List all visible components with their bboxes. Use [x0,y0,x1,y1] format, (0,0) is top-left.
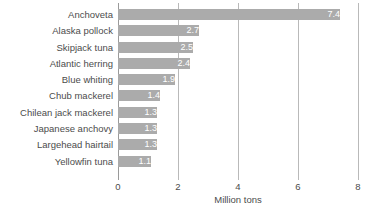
x-tick-label: 8 [355,181,360,192]
category-label: Atlantic herring [0,57,113,73]
x-tick-label: 6 [295,181,300,192]
category-label: Yellowfin tuna [0,155,113,171]
bar-value-label: 7.4 [118,8,342,21]
category-label: Chilean jack mackerel [0,106,113,122]
bar-row: 1.3 [118,122,358,138]
plot-area: 7.42.72.52.41.91.41.31.31.31.1 [118,0,358,180]
bar-value-label: 1.4 [118,89,162,102]
bar-value-label: 1.9 [118,73,177,86]
bar-row: 1.9 [118,73,358,89]
bar-value-label: 1.3 [118,138,159,151]
bar-row: 7.4 [118,8,358,24]
x-tick-label: 4 [235,181,240,192]
category-axis-labels: AnchovetaAlaska pollockSkipjack tunaAtla… [0,8,113,171]
bar-value-label: 1.3 [118,106,159,119]
bar-row: 2.4 [118,57,358,73]
x-tick-label: 2 [175,181,180,192]
bar-row: 1.3 [118,106,358,122]
category-label: Anchoveta [0,8,113,24]
bar-row: 2.5 [118,41,358,57]
gridline-8 [358,3,359,180]
x-axis-label: Million tons [118,194,358,205]
category-label: Blue whiting [0,73,113,89]
bar-row: 1.1 [118,155,358,171]
bar-value-label: 1.1 [118,155,153,168]
bar-value-label: 2.4 [118,57,192,70]
bar-value-label: 2.5 [118,41,195,54]
bar-chart: AnchovetaAlaska pollockSkipjack tunaAtla… [0,0,372,208]
bar-row: 2.7 [118,24,358,40]
category-label: Chub mackerel [0,89,113,105]
category-label: Alaska pollock [0,24,113,40]
bar-value-label: 2.7 [118,24,201,37]
bar-row: 1.3 [118,138,358,154]
x-tick-label: 0 [115,181,120,192]
bar-value-label: 1.3 [118,122,159,135]
bar-row: 1.4 [118,89,358,105]
category-label: Skipjack tuna [0,41,113,57]
category-label: Largehead hairtail [0,138,113,154]
bar-rows: 7.42.72.52.41.91.41.31.31.31.1 [118,8,358,171]
category-label: Japanese anchovy [0,122,113,138]
